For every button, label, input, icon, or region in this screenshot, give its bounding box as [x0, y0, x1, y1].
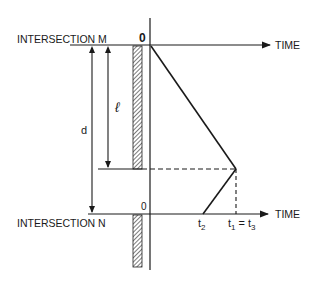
backward-wave-line — [203, 169, 236, 214]
time-bottom-label: TIME — [275, 208, 300, 220]
time-top-label: TIME — [275, 39, 300, 51]
t2-label: t2 — [198, 217, 206, 232]
forward-wave-line — [151, 46, 236, 169]
distance-label: d — [81, 124, 87, 136]
time-space-diagram: INTERSECTION M 0 TIME ℓ d 0 INTERSECTION… — [0, 0, 316, 283]
t1-t3-label: t1 = t3 — [228, 217, 256, 232]
hatched-barrier-lower — [133, 215, 142, 267]
length-label: ℓ — [114, 99, 120, 115]
origin-bottom-label: 0 — [141, 201, 147, 212]
hatched-barrier-upper — [133, 46, 142, 169]
intersection-n-label: INTERSECTION N — [17, 217, 106, 229]
intersection-m-label: INTERSECTION M — [17, 33, 107, 45]
origin-top-label: 0 — [139, 31, 146, 45]
